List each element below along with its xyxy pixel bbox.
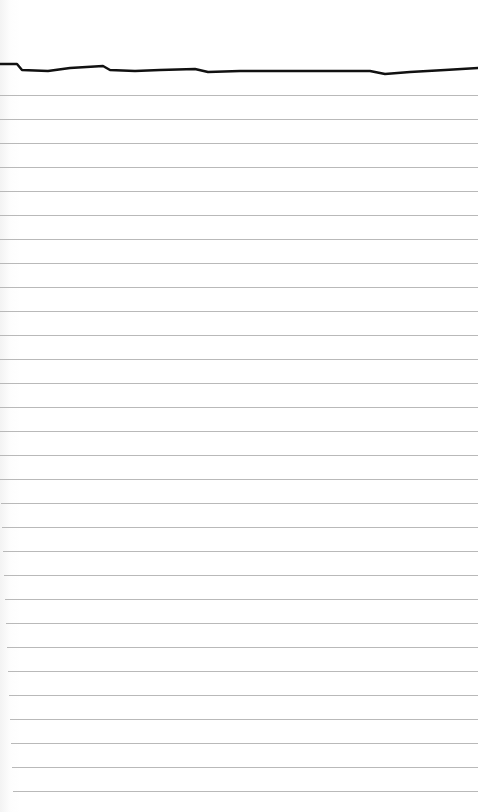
hand-drawn-line — [0, 0, 478, 812]
lined-paper — [0, 0, 478, 812]
